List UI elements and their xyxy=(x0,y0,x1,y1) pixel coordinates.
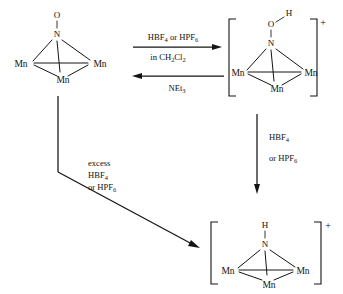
atom-label-manganese-right-imido: Mn xyxy=(296,266,309,276)
bond-mn-left-mn-bottom-hydroxyimido xyxy=(248,74,271,85)
atom-label-oxygen-hydroxyimido: O xyxy=(268,19,275,29)
atom-label-manganese-bottom-reactant: Mn xyxy=(56,75,69,85)
atom-label-manganese-left-imido: Mn xyxy=(221,266,234,276)
bond-mn-right-mn-bottom-hydroxyimido xyxy=(282,74,301,85)
arrow-label-forward-top-solvent: in CH2Cl2 xyxy=(150,52,185,63)
atom-label-manganese-bottom-imido: Mn xyxy=(262,280,275,290)
bracket-right-imido xyxy=(314,222,321,284)
arrow-label-reverse-top-base: NEt3 xyxy=(168,83,185,94)
bond-mn-right-mn-bottom-reactant xyxy=(68,65,88,76)
charge-label-imido: + xyxy=(325,220,331,231)
arrow-vertical-deoxygenation: HBF4 or HPF6 xyxy=(254,114,297,194)
bond-n-mn-left-imido xyxy=(238,250,260,268)
bond-n-mn-right-imido xyxy=(270,250,295,267)
structure-hydroxyimido-cation: + O H N Mn Mn Mn xyxy=(229,8,326,96)
arrow-diagonal-excess-acid: excess HBF4 or HPF6 xyxy=(58,96,200,248)
arrow-label-diagonal-line1: excess xyxy=(88,158,111,168)
bond-n-mn-bottom-imido xyxy=(265,251,267,275)
arrow-label-diagonal-line3: or HPF6 xyxy=(88,182,116,193)
arrow-head-reverse-top xyxy=(132,73,142,79)
arrow-label-vertical-line2: or HPF6 xyxy=(269,153,297,164)
structure-reactant: O N Mn Mn Mn xyxy=(14,10,106,85)
arrow-head-diagonal xyxy=(188,240,200,248)
atom-label-nitrogen-imido: N xyxy=(262,239,269,249)
arrow-label-diagonal-line2: HBF4 xyxy=(88,170,109,181)
bond-n-mn-left-reactant xyxy=(33,40,52,61)
bond-n-mn-bottom-reactant xyxy=(57,41,60,72)
bond-mn-right-mn-bottom-imido xyxy=(274,272,293,280)
bond-n-mn-right-reactant xyxy=(62,40,90,60)
bond-mn-left-mn-bottom-reactant xyxy=(34,65,57,76)
bracket-right-hydroxyimido xyxy=(310,19,317,96)
atom-label-hydrogen-imido: H xyxy=(262,220,269,230)
arrow-shaft-diagonal-slanted-segment xyxy=(58,172,192,244)
bond-o-h-hydroxyimido xyxy=(276,17,284,22)
structure-imido-cation: + H N Mn Mn Mn xyxy=(211,220,331,290)
atom-label-manganese-left-hydroxyimido: Mn xyxy=(231,68,244,78)
reaction-scheme: O N Mn Mn Mn HBF4 or HPF6 in CH2Cl2 NEt3 xyxy=(0,0,343,294)
bracket-left-imido xyxy=(211,222,218,284)
atom-label-hydrogen-hydroxyimido: H xyxy=(286,8,293,18)
atom-label-nitrogen-hydroxyimido: N xyxy=(268,38,275,48)
atom-label-manganese-left-reactant: Mn xyxy=(14,59,27,69)
atom-label-oxygen-reactant: O xyxy=(54,10,61,20)
atom-label-nitrogen-reactant: N xyxy=(54,29,61,39)
atom-label-manganese-bottom-hydroxyimido: Mn xyxy=(270,84,283,94)
arrow-label-forward-top-reagent: HBF4 or HPF6 xyxy=(148,32,198,43)
atom-label-manganese-right-reactant: Mn xyxy=(93,59,106,69)
arrow-label-vertical-line1: HBF4 xyxy=(269,132,290,143)
arrow-forward-protonation: HBF4 or HPF6 in CH2Cl2 xyxy=(133,32,222,63)
atom-label-manganese-right-hydroxyimido: Mn xyxy=(304,68,317,78)
bracket-left-hydroxyimido xyxy=(229,19,236,96)
bond-mn-left-mn-bottom-imido xyxy=(239,272,262,280)
charge-label-hydroxyimido: + xyxy=(320,17,326,28)
arrow-head-forward-top xyxy=(212,44,222,50)
bond-n-mn-left-hydroxyimido xyxy=(247,49,266,70)
bond-n-mn-right-hydroxyimido xyxy=(276,49,303,69)
arrow-head-vertical-right xyxy=(254,184,260,194)
bond-n-mn-bottom-hydroxyimido xyxy=(271,50,274,81)
arrow-reverse-deprotonation: NEt3 xyxy=(132,73,224,94)
